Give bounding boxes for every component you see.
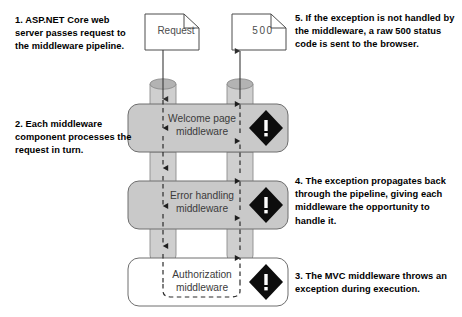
welcome-page-middleware-label-line1: Welcome page <box>153 113 251 126</box>
callout-step-3: 3. The MVC middleware throws an exceptio… <box>295 270 459 296</box>
callout-step-2: 2. Each middleware component processes t… <box>15 118 139 158</box>
welcome-page-middleware-label-line2: middleware <box>153 126 251 139</box>
authorization-middleware-label-line2: middleware <box>149 282 255 295</box>
authorization-middleware-label: Authorization middleware <box>149 269 255 294</box>
response-document-label: 500 <box>232 25 294 36</box>
authorization-middleware-label-line1: Authorization <box>149 269 255 282</box>
welcome-page-middleware-label: Welcome page middleware <box>153 113 251 138</box>
error-handling-middleware-label: Error handling middleware <box>153 190 251 215</box>
error-handling-middleware-label-line2: middleware <box>153 203 251 216</box>
request-document-label: Request <box>145 25 207 36</box>
diagram-canvas: Request 500 Welcome page middleware Erro… <box>0 0 462 317</box>
callout-step-5: 5. If the exception is not handled by th… <box>295 12 459 52</box>
error-handling-middleware-label-line1: Error handling <box>153 190 251 203</box>
callout-step-4: 4. The exception propagates back through… <box>295 175 459 228</box>
callout-step-1: 1. ASP.NET Core web server passes reques… <box>15 14 139 54</box>
